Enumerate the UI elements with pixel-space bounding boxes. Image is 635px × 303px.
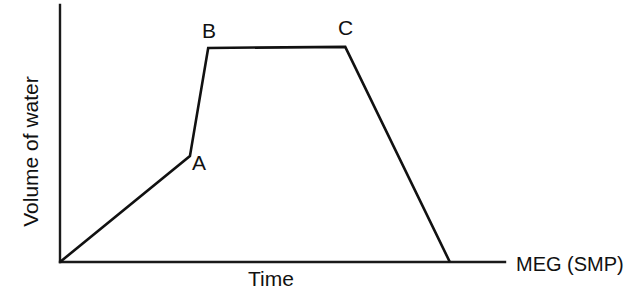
chart-figure: Volume of water Time MEG (SMP) A B C [0,0,635,303]
x-axis-label: Time [248,268,294,289]
point-label-b: B [202,20,216,41]
point-label-c: C [338,17,353,38]
volume-of-water-series-line [60,47,450,262]
point-label-a: A [192,152,206,173]
y-axis-label: Volume of water [10,0,50,303]
corner-watermark-label: MEG (SMP) [516,254,624,274]
